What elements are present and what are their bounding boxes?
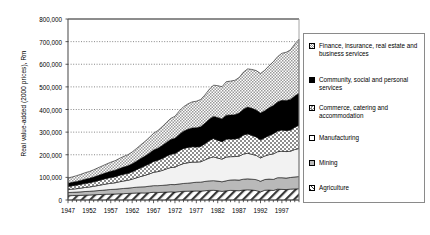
stacked-area-chart: Real value-added (2000 prices), Rm 0100,… — [0, 0, 430, 235]
legend-label: Commerce, catering and accommodation — [319, 104, 423, 120]
legend-label: Finance, insurance, real estate and busi… — [319, 42, 423, 58]
legend-item[interactable]: Agriculture — [309, 184, 423, 192]
legend-swatch-icon — [309, 185, 315, 191]
legend-swatch-icon — [309, 135, 315, 141]
legend-label: Agriculture — [319, 184, 349, 192]
legend-item[interactable]: Community, social and personal services — [309, 76, 423, 92]
chart-legend: Finance, insurance, real estate and busi… — [303, 33, 425, 203]
legend-item[interactable]: Finance, insurance, real estate and busi… — [309, 42, 423, 58]
legend-item[interactable]: Manufacturing — [309, 134, 423, 142]
legend-label: Manufacturing — [319, 134, 359, 142]
legend-swatch-icon — [309, 160, 315, 166]
legend-label: Mining — [319, 159, 338, 167]
legend-swatch-icon — [309, 43, 315, 49]
legend-label: Community, social and personal services — [319, 76, 423, 92]
legend-item[interactable]: Commerce, catering and accommodation — [309, 104, 423, 120]
legend-swatch-icon — [309, 77, 315, 83]
legend-swatch-icon — [309, 105, 315, 111]
legend-item[interactable]: Mining — [309, 159, 423, 167]
